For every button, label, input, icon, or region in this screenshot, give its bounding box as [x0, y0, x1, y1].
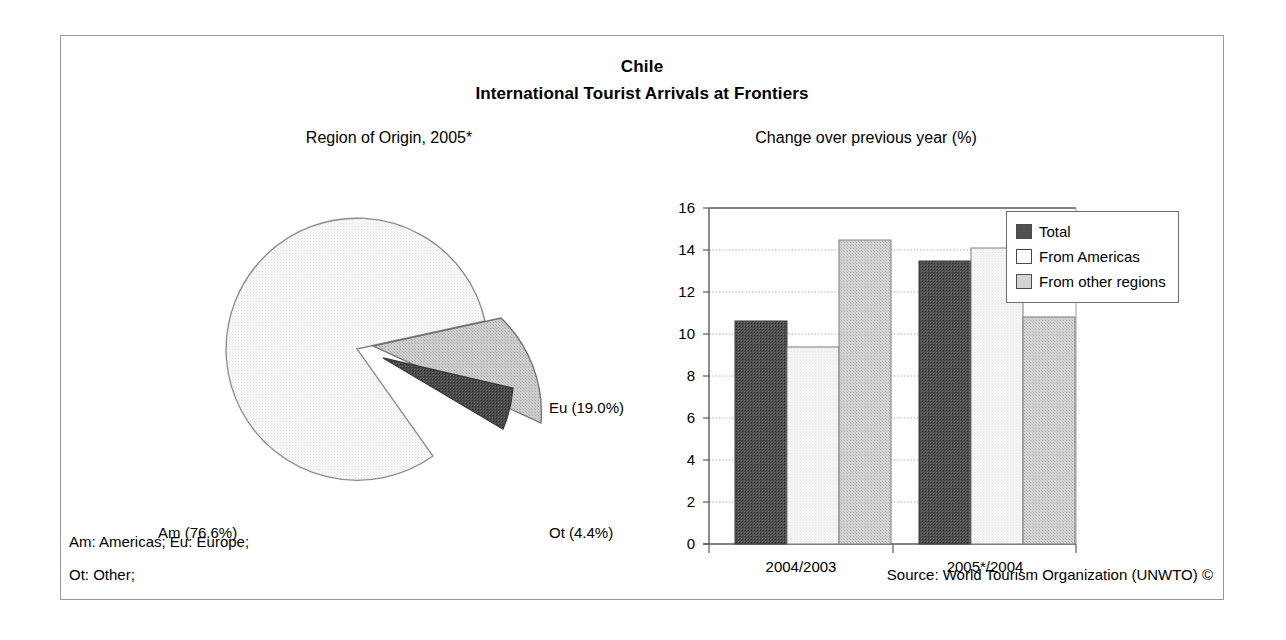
chart-frame: Chile International Tourist Arrivals at … — [60, 35, 1224, 600]
bar-chart-heading: Change over previous year (%) — [651, 129, 1081, 147]
pie-chart: Eu (19.0%) Ot (4.4%) Am (76.6%) — [151, 166, 661, 516]
bar-chart: 16 14 12 10 8 6 4 2 0 2004/2003 2005*/20… — [661, 161, 1161, 581]
pie-label-other: Ot (4.4%) — [549, 524, 613, 541]
bar-other-regions-2004-2003 — [839, 240, 891, 544]
title-block: Chile International Tourist Arrivals at … — [61, 56, 1223, 106]
y-tick-0: 0 — [661, 535, 695, 552]
pie-chart-svg — [151, 166, 661, 516]
legend-label-from-other-regions: From other regions — [1039, 273, 1166, 290]
legend-swatch-from-americas-icon — [1016, 249, 1032, 264]
legend-swatch-total-icon — [1016, 224, 1032, 239]
legend-item-from-americas[interactable]: From Americas — [1016, 244, 1166, 269]
pie-label-europe: Eu (19.0%) — [549, 399, 624, 416]
legend-swatch-from-other-regions-icon — [1016, 274, 1032, 289]
y-tick-4: 4 — [661, 451, 695, 468]
y-tick-16: 16 — [661, 199, 695, 216]
page-subtitle: International Tourist Arrivals at Fronti… — [61, 82, 1223, 106]
page-title: Chile — [61, 56, 1223, 78]
footnote-abbreviations-line-2: Ot: Other; — [69, 566, 135, 583]
y-tick-6: 6 — [661, 409, 695, 426]
x-category-2004-2003: 2004/2003 — [741, 558, 861, 575]
legend-label-total: Total — [1039, 223, 1071, 240]
y-tick-8: 8 — [661, 367, 695, 384]
bar-other-regions-2005-2004 — [1023, 317, 1075, 544]
y-tick-10: 10 — [661, 325, 695, 342]
bar-chart-legend: Total From Americas From other regions — [1006, 211, 1179, 303]
legend-item-total[interactable]: Total — [1016, 219, 1166, 244]
bar-total-2004-2003 — [735, 321, 787, 544]
y-tick-2: 2 — [661, 493, 695, 510]
bar-group-2004-2003 — [735, 240, 891, 544]
bar-total-2005-2004 — [919, 261, 971, 544]
bar-americas-2004-2003 — [787, 347, 839, 544]
footnote-abbreviations-line-1: Am: Americas; Eu: Europe; — [69, 533, 249, 550]
source-note: Source: World Tourism Organization (UNWT… — [887, 566, 1213, 583]
pie-chart-heading: Region of Origin, 2005* — [229, 129, 549, 147]
y-tick-12: 12 — [661, 283, 695, 300]
y-tick-14: 14 — [661, 241, 695, 258]
legend-label-from-americas: From Americas — [1039, 248, 1140, 265]
legend-item-from-other-regions[interactable]: From other regions — [1016, 269, 1166, 294]
